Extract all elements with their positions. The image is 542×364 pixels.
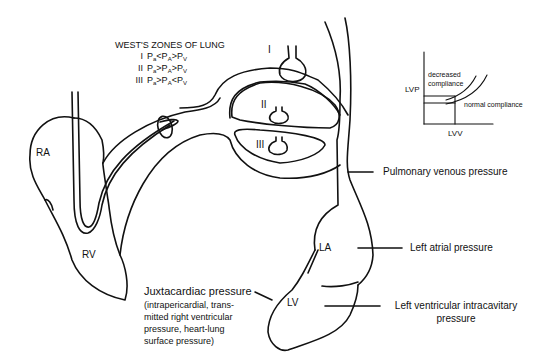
la-lv-outline	[268, 250, 358, 350]
zone-row-3: IIIPa>PA<PV	[115, 75, 225, 87]
juxtacardiac-title: Juxtacardiac pressure	[144, 285, 252, 297]
right-heart-outline	[30, 98, 220, 300]
alveolus-zone3	[269, 137, 287, 154]
leader-juxtacardiac	[255, 292, 272, 300]
zone-row-1: IPa<PA>PV	[115, 51, 225, 63]
west-zones-legend: WEST'S ZONES OF LUNG IPa<PA>PV IIPa>PA>P…	[115, 40, 225, 87]
label-lv: LV	[287, 298, 299, 308]
zone-numeral: II	[129, 63, 143, 74]
label-pulmonary-venous-pressure: Pulmonary venous pressure	[383, 167, 508, 177]
inset-x-label: LVV	[448, 130, 463, 138]
label-alveolus-zone1: I	[268, 45, 271, 55]
catheter-outer	[72, 92, 170, 233]
inset-y-label: LVP	[405, 86, 420, 94]
zone-numeral: I	[129, 51, 143, 62]
zone-row-2: IIPa>PA>PV	[115, 63, 225, 75]
inset-decreased-compliance-label: decreased compliance	[428, 70, 463, 88]
pulmonary-artery-lower-wall	[120, 133, 340, 255]
juxtacardiac-pressure-block: Juxtacardiac pressure (intrapericardial,…	[144, 285, 252, 347]
label-rv: RV	[82, 250, 96, 260]
alveolus-zone1	[279, 46, 305, 82]
av-groove	[322, 282, 358, 287]
label-lv-intracavitary-pressure: Left ventricular intracavitary pressure	[386, 301, 526, 324]
alveolus-zone2	[270, 107, 289, 123]
zone-numeral: III	[129, 75, 143, 86]
inset-normal-compliance-label: normal compliance	[464, 101, 523, 108]
label-alveolus-zone2: II	[261, 100, 267, 110]
pulmonary-vein-left-wall	[314, 22, 340, 250]
compliance-inset-chart	[424, 52, 493, 124]
label-alveolus-zone3: III	[256, 140, 264, 150]
zone3-chamber	[235, 129, 325, 163]
west-zones-heading: WEST'S ZONES OF LUNG	[115, 40, 225, 51]
pulmonary-vein-right-wall	[345, 18, 373, 285]
label-ra: RA	[36, 148, 50, 158]
label-la: LA	[319, 243, 331, 253]
label-left-atrial-pressure: Left atrial pressure	[410, 243, 493, 253]
